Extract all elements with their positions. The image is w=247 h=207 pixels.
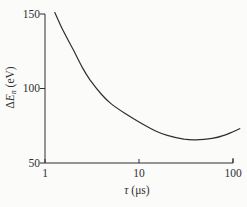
axes bbox=[45, 14, 233, 163]
x-tick-label-1: 1 bbox=[28, 167, 62, 180]
y-axis-label: ΔEn (eV) bbox=[4, 53, 17, 123]
data-curve bbox=[55, 13, 240, 140]
axis-ticks bbox=[40, 14, 233, 163]
x-tick-label-100: 100 bbox=[216, 167, 247, 180]
y-axis-unit: (eV) bbox=[4, 66, 16, 87]
line-chart-figure: 150 100 50 1 10 100 τ (μs) ΔEn (eV) bbox=[0, 0, 247, 207]
y-axis-subscript: n bbox=[9, 90, 18, 94]
x-tick-label-10: 10 bbox=[122, 167, 156, 180]
y-axis-symbol: E bbox=[4, 94, 16, 101]
x-axis-unit: (μs) bbox=[131, 184, 149, 196]
y-tick-label-150: 150 bbox=[10, 8, 40, 21]
x-axis-symbol: τ bbox=[124, 184, 128, 196]
x-axis-label: τ (μs) bbox=[97, 184, 177, 197]
y-axis-prefix: Δ bbox=[4, 101, 16, 108]
